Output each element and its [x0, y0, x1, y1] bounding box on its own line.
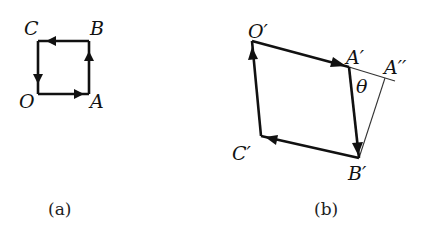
- label-C-prime: C′: [232, 142, 252, 164]
- caption-a: (a): [48, 199, 71, 219]
- label-O-prime: O′: [248, 20, 269, 42]
- label-C: C: [24, 17, 39, 39]
- diagram-canvas: O A B C (a) O′ A′ A′′ θ C′ B′ (b): [0, 0, 443, 236]
- label-B-prime: B′: [347, 162, 367, 184]
- arrow-AB-icon: [352, 142, 363, 155]
- label-O: O: [19, 90, 35, 112]
- arrow-CO-icon: [33, 74, 43, 84]
- arrow-OA-icon: [74, 89, 84, 99]
- figure-a: O A B C (a): [19, 17, 104, 219]
- figure-b: O′ A′ A′′ θ C′ B′ (b): [232, 20, 407, 219]
- arrow-OA-icon: [330, 57, 346, 67]
- arrow-AB-icon: [84, 51, 94, 61]
- label-A: A: [88, 90, 104, 112]
- label-A-prime: A′: [344, 46, 365, 68]
- caption-b: (b): [314, 199, 338, 219]
- label-A-double-prime: A′′: [382, 56, 407, 78]
- arrow-BC-icon: [46, 36, 56, 46]
- label-B: B: [89, 17, 104, 39]
- label-theta: θ: [356, 75, 368, 97]
